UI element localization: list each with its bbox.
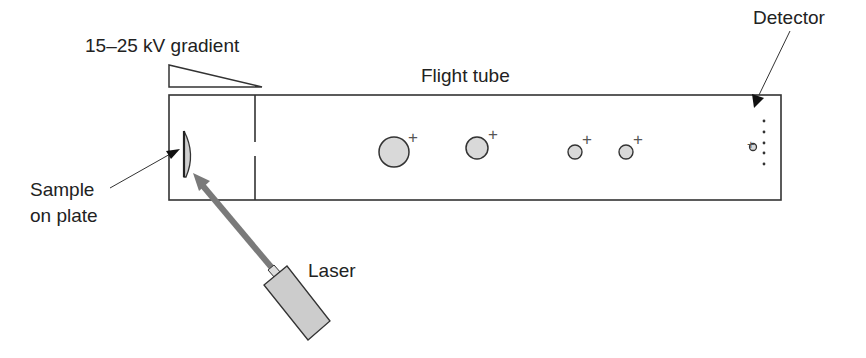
- svg-text:+: +: [633, 130, 643, 149]
- ion-1: +: [379, 128, 418, 167]
- detector-label: Detector: [753, 7, 825, 28]
- detector-pointer-arrowhead: [752, 94, 764, 108]
- maldi-tof-diagram: 15–25 kV gradient Flight tube Sample on …: [0, 0, 866, 358]
- laser-label: Laser: [308, 260, 356, 281]
- svg-text:+: +: [488, 125, 498, 144]
- sample-label-line2: on plate: [30, 205, 98, 226]
- ion-2: +: [466, 125, 498, 159]
- ion-4: +: [619, 130, 643, 159]
- gradient-wedge: [169, 65, 262, 87]
- sample-pointer: [110, 153, 172, 188]
- sample-label-line1: Sample: [30, 179, 94, 200]
- detector: [763, 120, 766, 166]
- ion-3: +: [568, 130, 592, 159]
- ion-5-at-detector: +: [747, 137, 757, 152]
- detector-pointer: [759, 31, 790, 95]
- sample-pointer-arrowhead: [166, 149, 180, 159]
- svg-text:+: +: [747, 137, 755, 152]
- gradient-label: 15–25 kV gradient: [85, 35, 240, 56]
- svg-text:+: +: [408, 128, 418, 147]
- laser-beam: [203, 186, 272, 268]
- flight-tube-label: Flight tube: [421, 65, 510, 86]
- svg-text:+: +: [582, 130, 592, 149]
